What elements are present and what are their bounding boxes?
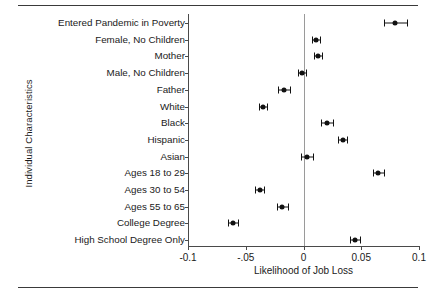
y-axis-tick — [185, 140, 189, 141]
ci-cap-upper — [306, 70, 307, 77]
estimate-point — [324, 121, 329, 126]
category-label: Male, No Children — [107, 68, 185, 78]
y-axis-tick — [185, 157, 189, 158]
y-axis-tick — [185, 56, 189, 57]
x-axis-tick-label: 0 — [274, 252, 334, 263]
zero-reference-line — [304, 14, 305, 246]
ci-cap-upper — [407, 20, 408, 27]
bottom-rule — [18, 287, 418, 288]
y-axis-tick — [185, 73, 189, 74]
category-label: Ages 30 to 54 — [125, 185, 185, 195]
estimate-point — [340, 137, 345, 142]
ci-cap-upper — [333, 120, 334, 127]
ci-cap-lower — [277, 203, 278, 210]
estimate-point — [231, 221, 236, 226]
x-axis-tick-label: 0.1 — [389, 252, 431, 263]
x-axis-tick — [419, 246, 420, 250]
estimate-point — [376, 171, 381, 176]
estimate-point — [257, 188, 262, 193]
category-label: Entered Pandemic in Poverty — [58, 18, 185, 28]
ci-cap-upper — [322, 53, 323, 60]
ci-cap-upper — [290, 86, 291, 93]
estimate-point — [299, 71, 304, 76]
estimate-point — [260, 104, 265, 109]
estimate-point — [353, 238, 358, 243]
ci-cap-upper — [320, 36, 321, 43]
estimate-point — [315, 54, 320, 59]
category-label: White — [160, 102, 185, 112]
ci-cap-upper — [384, 170, 385, 177]
y-axis-tick — [185, 23, 189, 24]
ci-cap-lower — [373, 170, 374, 177]
y-axis-tick — [185, 190, 189, 191]
category-label: Female, No Children — [95, 35, 185, 45]
category-label: Ages 18 to 29 — [125, 168, 185, 178]
category-label: Black — [161, 118, 185, 128]
x-axis-title: Likelihood of Job Loss — [188, 265, 419, 276]
ci-cap-upper — [360, 237, 361, 244]
y-axis-tick — [185, 40, 189, 41]
ci-cap-upper — [313, 153, 314, 160]
ci-cap-lower — [321, 120, 322, 127]
estimate-point — [313, 37, 318, 42]
category-label: Mother — [155, 51, 186, 61]
ci-cap-upper — [267, 103, 268, 110]
ci-cap-lower — [301, 153, 302, 160]
y-axis-tick — [185, 207, 189, 208]
x-axis-tick-label: -.05 — [216, 252, 276, 263]
category-label: High School Degree Only — [74, 235, 185, 245]
y-axis-tick — [185, 123, 189, 124]
ci-cap-lower — [228, 220, 229, 227]
ci-cap-lower — [384, 20, 385, 27]
top-rule — [18, 5, 418, 6]
x-axis-tick — [361, 246, 362, 250]
y-axis-tick — [185, 223, 189, 224]
ci-cap-lower — [338, 136, 339, 143]
category-label: Hispanic — [147, 135, 185, 145]
y-axis-tick — [185, 90, 189, 91]
ci-cap-upper — [238, 220, 239, 227]
y-axis-tick — [185, 173, 189, 174]
ci-cap-lower — [278, 86, 279, 93]
category-label: Ages 55 to 65 — [125, 202, 185, 212]
category-label: College Degree — [117, 218, 185, 228]
y-axis-title: Individual Characteristics — [23, 34, 34, 234]
estimate-point — [304, 154, 309, 159]
coefficient-plot-figure: Individual Characteristics Entered Pande… — [0, 0, 431, 299]
x-axis-tick — [246, 246, 247, 250]
x-axis-tick-label: 0.05 — [331, 252, 391, 263]
y-axis-tick — [185, 107, 189, 108]
ci-cap-upper — [347, 136, 348, 143]
x-axis-tick — [188, 246, 189, 250]
category-label: Father — [157, 85, 185, 95]
ci-cap-upper — [264, 187, 265, 194]
ci-cap-lower — [350, 237, 351, 244]
estimate-point — [281, 87, 286, 92]
x-axis-tick-label: -0.1 — [158, 252, 218, 263]
category-label: Asian — [160, 152, 185, 162]
y-axis-line — [188, 14, 189, 246]
x-axis-tick — [304, 246, 305, 250]
estimate-point — [280, 204, 285, 209]
ci-cap-lower — [255, 187, 256, 194]
estimate-point — [393, 21, 398, 26]
y-axis-tick — [185, 240, 189, 241]
ci-cap-upper — [288, 203, 289, 210]
